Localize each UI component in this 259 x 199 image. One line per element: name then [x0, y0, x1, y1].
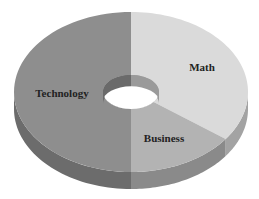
label-math: Math [189, 61, 215, 73]
label-business: Business [144, 132, 185, 144]
donut-chart: Technology Math Business [0, 0, 259, 199]
label-technology: Technology [35, 87, 89, 99]
